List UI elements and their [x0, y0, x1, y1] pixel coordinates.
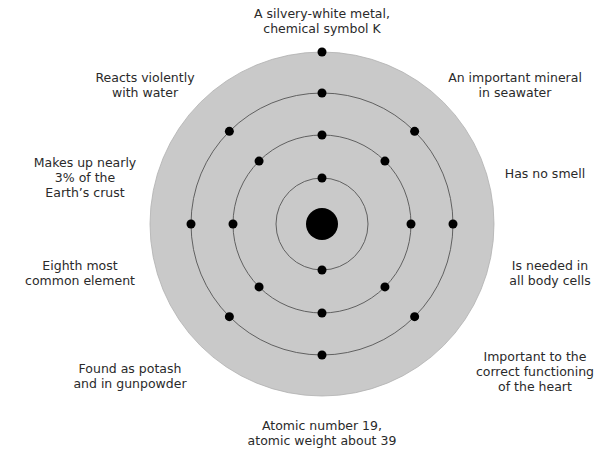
- electron: [225, 312, 234, 321]
- electron: [410, 312, 419, 321]
- label-bottom: Atomic number 19, atomic weight about 39: [222, 418, 422, 448]
- label-bottom-left: Found as potash and in gunpowder: [65, 361, 195, 391]
- electron: [410, 127, 419, 136]
- label-mid-right-lower: Is needed in all body cells: [500, 258, 600, 288]
- label-mid-right-upper: Has no smell: [490, 166, 600, 181]
- electron: [318, 48, 327, 57]
- electron: [380, 157, 389, 166]
- nucleus: [306, 208, 338, 240]
- electron: [318, 174, 327, 183]
- electron: [255, 282, 264, 291]
- label-top: A silvery-white metal, chemical symbol K: [222, 6, 422, 36]
- label-top-right: An important mineral in seawater: [440, 70, 590, 100]
- electron: [449, 220, 458, 229]
- electron: [318, 266, 327, 275]
- electron: [407, 220, 416, 229]
- electron: [380, 282, 389, 291]
- label-mid-left-upper: Makes up nearly 3% of the Earth’s crust: [30, 155, 140, 200]
- electron: [229, 220, 238, 229]
- electron: [318, 131, 327, 140]
- electron: [318, 89, 327, 98]
- electron: [187, 220, 196, 229]
- electron: [318, 309, 327, 318]
- label-top-left: Reacts violently with water: [90, 70, 200, 100]
- label-mid-left-lower: Eighth most common element: [20, 258, 140, 288]
- electron: [318, 351, 327, 360]
- electron: [255, 157, 264, 166]
- label-bottom-right: Important to the correct functioning of …: [460, 349, 610, 394]
- electron: [225, 127, 234, 136]
